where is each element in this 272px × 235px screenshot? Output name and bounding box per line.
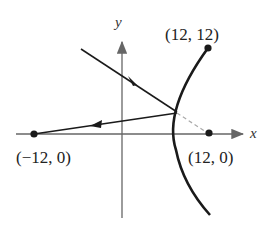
right-focus-label: (12, 0) <box>188 148 233 167</box>
curve-endpoint-label: (12, 12) <box>165 25 219 44</box>
incoming-ray <box>81 49 177 112</box>
left-focus-label: (−12, 0) <box>16 148 71 167</box>
dashed-extension <box>177 113 209 134</box>
curve-endpoint-point <box>204 44 211 51</box>
x-axis-label: x <box>249 125 257 141</box>
y-axis-label: y <box>113 14 122 30</box>
hyperbola-branch <box>173 48 210 215</box>
left-focus-point <box>30 130 37 137</box>
reflected-ray <box>34 113 177 134</box>
right-focus-point <box>205 129 212 136</box>
hyperbola-reflection-diagram: x y (−12, 0) (12, 0) (12, 12) <box>0 0 272 235</box>
reflected-ray-arrow-icon <box>90 120 102 128</box>
